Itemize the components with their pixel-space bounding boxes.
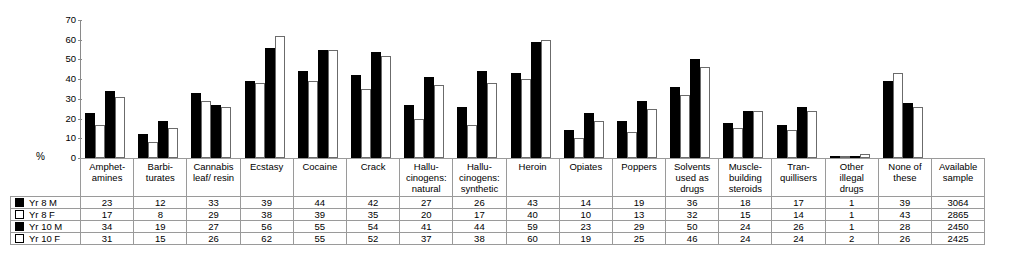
category-label-line: natural bbox=[401, 183, 451, 194]
bar-group bbox=[240, 20, 293, 158]
category-label-line: Cocaine bbox=[295, 161, 345, 172]
bar bbox=[521, 79, 531, 158]
table-value-cell: 8 bbox=[134, 209, 187, 221]
table-row: Yr 8 M2312333944422726431419361817139306… bbox=[11, 197, 985, 209]
table-value-cell: 10 bbox=[559, 209, 612, 221]
category-label-line: cinogens: bbox=[401, 172, 451, 183]
table-value-cell: 18 bbox=[719, 197, 772, 209]
table-value-cell: 1 bbox=[825, 221, 878, 233]
bar bbox=[191, 93, 201, 158]
bar bbox=[105, 91, 115, 158]
bar-group-bars bbox=[883, 20, 923, 158]
bar-group-bars bbox=[138, 20, 178, 158]
category-label-line: Cannabis bbox=[188, 161, 238, 172]
table-value-cell: 2425 bbox=[932, 233, 985, 245]
category-label-line: Opiates bbox=[561, 161, 611, 172]
bar-group-bars bbox=[723, 20, 763, 158]
bar bbox=[115, 97, 125, 158]
bar-group bbox=[931, 20, 984, 158]
table-value-cell: 17 bbox=[81, 209, 134, 221]
table-value-cell: 15 bbox=[719, 209, 772, 221]
category-label-line: turates bbox=[135, 172, 185, 183]
category-label-cell: Hallu-cinogens:synthetic bbox=[453, 159, 506, 197]
table-value-cell: 54 bbox=[346, 221, 399, 233]
bar bbox=[328, 50, 338, 158]
table-row: Yr 10 M341927565554414459232950242612824… bbox=[11, 221, 985, 233]
bar bbox=[221, 107, 231, 158]
table-value-cell: 33 bbox=[187, 197, 240, 209]
category-label-line: Other bbox=[827, 161, 877, 172]
category-label-line: Crack bbox=[348, 161, 398, 172]
data-value-table: Yr 8 M2312333944422726431419361817139306… bbox=[10, 196, 985, 245]
table-value-cell: 24 bbox=[719, 221, 772, 233]
table-value-cell: 59 bbox=[506, 221, 559, 233]
bar bbox=[298, 71, 308, 158]
bar-group bbox=[133, 20, 186, 158]
legend-series-label: Yr 10 F bbox=[29, 233, 71, 244]
table-value-cell: 52 bbox=[346, 233, 399, 245]
bar bbox=[381, 56, 391, 159]
table-value-cell: 19 bbox=[134, 221, 187, 233]
table-value-cell: 2 bbox=[825, 233, 878, 245]
category-label-line: quillisers bbox=[773, 172, 823, 183]
bar bbox=[457, 107, 467, 158]
bar bbox=[531, 42, 541, 158]
bar bbox=[647, 109, 657, 158]
bar-group bbox=[506, 20, 559, 158]
table-value-cell: 36 bbox=[666, 197, 719, 209]
bar-group bbox=[718, 20, 771, 158]
table-value-cell: 20 bbox=[400, 209, 453, 221]
bar-group-bars bbox=[85, 20, 125, 158]
category-label-line: used as drugs bbox=[667, 172, 717, 194]
bar-group bbox=[346, 20, 399, 158]
table-value-cell: 31 bbox=[81, 233, 134, 245]
bar bbox=[893, 73, 903, 158]
table-value-cell: 32 bbox=[666, 209, 719, 221]
table-row: Yr 10 F311526625552373860192546242422624… bbox=[11, 233, 985, 245]
category-label-cell: Hallu-cinogens:natural bbox=[400, 159, 453, 197]
table-value-cell: 26 bbox=[187, 233, 240, 245]
y-tick-label: 10 bbox=[50, 133, 76, 143]
category-label-cell: Cocaine bbox=[293, 159, 346, 197]
bar-group-bars bbox=[191, 20, 231, 158]
bar bbox=[477, 71, 487, 158]
bar bbox=[617, 121, 627, 158]
category-label-line: building bbox=[720, 172, 770, 183]
bar bbox=[255, 83, 265, 158]
bar bbox=[148, 142, 158, 158]
bar-group-bars bbox=[777, 20, 817, 158]
table-value-cell: 29 bbox=[612, 221, 665, 233]
bar-group bbox=[80, 20, 133, 158]
category-label-cell: Ecstasy bbox=[240, 159, 293, 197]
bar bbox=[753, 111, 763, 158]
table-value-cell: 34 bbox=[81, 221, 134, 233]
table-value-cell: 17 bbox=[772, 197, 825, 209]
table-value-cell: 44 bbox=[453, 221, 506, 233]
bar bbox=[564, 130, 574, 158]
category-label-line: Hallu- bbox=[454, 161, 504, 172]
bar bbox=[158, 121, 168, 158]
bar bbox=[371, 52, 381, 158]
table-value-cell: 19 bbox=[612, 197, 665, 209]
table-value-cell: 19 bbox=[559, 233, 612, 245]
y-tick-label: 0 bbox=[50, 153, 76, 163]
category-label-cell: Tran-quillisers bbox=[772, 159, 825, 197]
category-label-line: None of these bbox=[880, 161, 930, 183]
table-value-cell: 55 bbox=[293, 221, 346, 233]
bar-group bbox=[293, 20, 346, 158]
table-value-cell: 56 bbox=[240, 221, 293, 233]
bar bbox=[584, 113, 594, 158]
y-tick-label: 70 bbox=[50, 15, 76, 25]
bar bbox=[487, 83, 497, 158]
table-value-cell: 3064 bbox=[932, 197, 985, 209]
bar bbox=[265, 48, 275, 158]
bar bbox=[787, 130, 797, 158]
category-label-line: Amphet- bbox=[82, 161, 132, 172]
table-value-cell: 27 bbox=[187, 221, 240, 233]
table-value-cell: 28 bbox=[878, 221, 931, 233]
table-value-cell: 39 bbox=[293, 209, 346, 221]
category-label-line: Ecstasy bbox=[242, 161, 292, 172]
table-value-cell: 14 bbox=[772, 209, 825, 221]
table-value-cell: 55 bbox=[293, 233, 346, 245]
category-label-cell: Availablesample bbox=[932, 159, 985, 197]
